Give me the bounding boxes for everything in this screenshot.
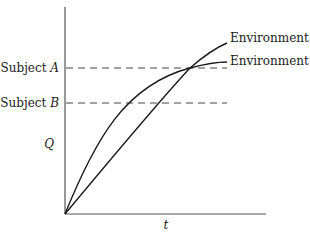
environment-1-curve [65, 43, 227, 214]
subject-a-label: Subject A [1, 61, 60, 75]
environment-2-curve [65, 62, 227, 214]
environment-2-label: Environment 2 [230, 54, 310, 68]
subject-b-label: Subject B [0, 96, 59, 110]
y-axis-label: Q [44, 137, 54, 151]
environment-1-label: Environment 1 [230, 31, 310, 45]
learning-curve-diagram: Subject A Subject B Q t Environment 1 En… [0, 0, 310, 238]
x-axis-label: t [164, 218, 169, 232]
